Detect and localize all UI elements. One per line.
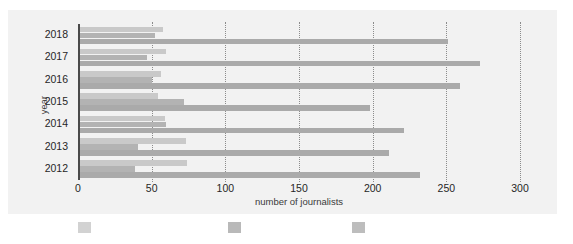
plot-area <box>78 24 520 180</box>
y-tick-2016: 2016 <box>8 73 68 85</box>
bar-group-2014 <box>78 113 520 135</box>
bar-group-2013 <box>78 135 520 157</box>
bar-2017-series-3 <box>78 61 480 67</box>
gridline-300 <box>520 22 521 182</box>
bar-2013-series-3 <box>78 150 389 156</box>
y-tick-2013: 2013 <box>8 140 68 152</box>
chart-screenshot: year 2018201720162015201420132012 050100… <box>0 0 573 244</box>
legend-item-3[interactable] <box>352 222 365 233</box>
x-tick-100: 100 <box>217 182 235 194</box>
bar-groups <box>78 24 520 180</box>
bar-2016-series-3 <box>78 83 460 89</box>
y-tick-2014: 2014 <box>8 117 68 129</box>
x-tick-300: 300 <box>511 182 529 194</box>
bar-2014-series-1 <box>78 116 165 122</box>
bar-2018-series-2 <box>78 33 155 39</box>
legend-swatch-1 <box>78 222 91 233</box>
x-tick-250: 250 <box>438 182 456 194</box>
bar-2012-series-1 <box>78 160 187 166</box>
bar-2015-series-1 <box>78 93 158 99</box>
y-tick-2015: 2015 <box>8 95 68 107</box>
chart-legend <box>0 222 573 240</box>
x-axis-title: number of journalists <box>78 196 520 207</box>
legend-item-1[interactable] <box>78 222 91 233</box>
bar-2012-series-3 <box>78 172 420 178</box>
bar-2018-series-3 <box>78 39 448 45</box>
bar-2016-series-1 <box>78 71 161 77</box>
y-tick-2017: 2017 <box>8 50 68 62</box>
bar-2013-series-1 <box>78 138 186 144</box>
x-tick-0: 0 <box>75 182 81 194</box>
legend-swatch-3 <box>352 222 365 233</box>
bar-2013-series-2 <box>78 144 138 150</box>
x-tick-200: 200 <box>364 182 382 194</box>
bar-2012-series-2 <box>78 166 135 172</box>
bar-2018-series-1 <box>78 27 163 33</box>
bar-group-2017 <box>78 46 520 68</box>
bar-2017-series-1 <box>78 49 166 55</box>
bar-group-2012 <box>78 158 520 180</box>
bar-2015-series-2 <box>78 99 184 105</box>
bar-group-2015 <box>78 91 520 113</box>
chart-card: year 2018201720162015201420132012 050100… <box>8 10 557 214</box>
legend-item-2[interactable] <box>228 222 241 233</box>
bar-2017-series-2 <box>78 55 147 61</box>
bar-group-2016 <box>78 69 520 91</box>
bar-group-2018 <box>78 24 520 46</box>
x-tick-150: 150 <box>290 182 308 194</box>
legend-swatch-2 <box>228 222 241 233</box>
bar-2016-series-2 <box>78 77 152 83</box>
y-tick-2018: 2018 <box>8 28 68 40</box>
y-tick-2012: 2012 <box>8 162 68 174</box>
bar-2014-series-3 <box>78 128 404 134</box>
bar-2015-series-3 <box>78 105 370 111</box>
bar-2014-series-2 <box>78 122 166 128</box>
x-tick-50: 50 <box>146 182 158 194</box>
y-axis-line <box>78 24 80 180</box>
y-axis-tick-labels: 2018201720162015201420132012 <box>8 24 74 180</box>
